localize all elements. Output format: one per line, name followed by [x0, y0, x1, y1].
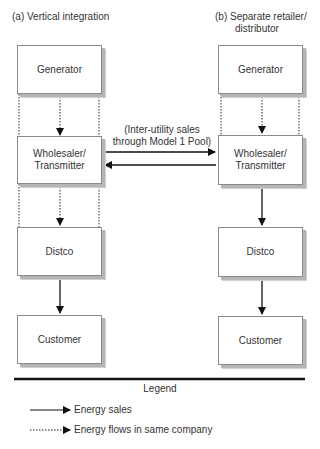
legend-label-same-company: Energy flows in same company [74, 424, 212, 435]
right-customer-box: Customer [218, 316, 303, 365]
left-generator-box: Generator [17, 45, 102, 94]
company-boundary-right [221, 94, 299, 135]
left-customer-box: Customer [17, 315, 102, 364]
inter-utility-label: (Inter-utility sales through Model 1 Poo… [106, 124, 218, 148]
inter-utility-line1: (Inter-utility sales [106, 124, 218, 136]
legend-title: Legend [0, 383, 320, 394]
left-wholesaler-box: Wholesaler/ Transmitter [17, 136, 102, 184]
left-distco-box: Distco [17, 227, 102, 276]
right-distco-box: Distco [218, 227, 303, 277]
right-wholesaler-box: Wholesaler/ Transmitter [218, 135, 303, 185]
legend-label-energy-sales: Energy sales [74, 404, 132, 415]
right-generator-box: Generator [218, 45, 303, 94]
inter-utility-line2: through Model 1 Pool) [106, 136, 218, 148]
